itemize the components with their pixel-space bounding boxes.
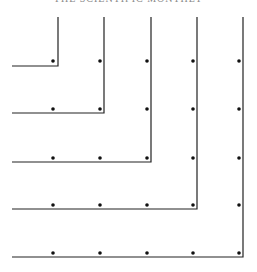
dot (98, 251, 102, 255)
dot (191, 107, 195, 111)
dot (191, 251, 195, 255)
dot (51, 203, 55, 207)
dot (51, 251, 55, 255)
dot (237, 59, 241, 63)
dot (145, 156, 149, 160)
dot (145, 59, 149, 63)
dot (237, 107, 241, 111)
dot (98, 107, 102, 111)
dot (98, 59, 102, 63)
gnomon-line-1 (12, 17, 58, 66)
dot (145, 203, 149, 207)
dot (51, 59, 55, 63)
dot (98, 156, 102, 160)
dot (237, 203, 241, 207)
dot (191, 156, 195, 160)
dot (145, 107, 149, 111)
dot (98, 203, 102, 207)
dot (191, 203, 195, 207)
dot (51, 107, 55, 111)
dot (237, 251, 241, 255)
dot (191, 59, 195, 63)
gnomon-line-3 (12, 17, 151, 162)
dot (51, 156, 55, 160)
dot (237, 156, 241, 160)
gnomon-dot-diagram (0, 0, 257, 272)
gnomon-line-5 (12, 17, 243, 257)
dot (145, 251, 149, 255)
